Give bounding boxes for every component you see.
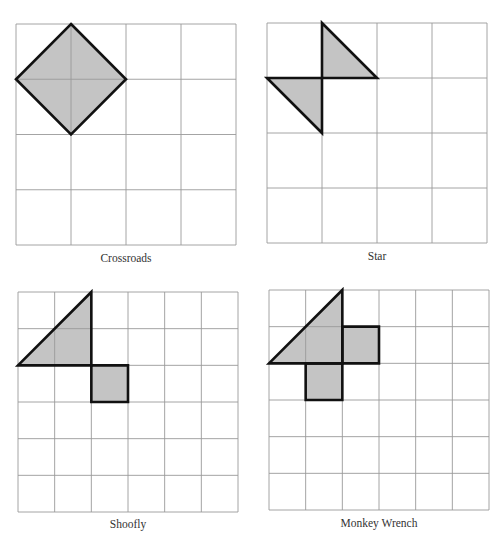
monkey-wrench-diagram — [269, 290, 489, 510]
figure-shoofly — [18, 292, 238, 512]
shoofly-square-fill — [91, 365, 128, 402]
crossroads-diagram — [16, 24, 236, 245]
monkey-wrench-right-square-fill — [342, 327, 379, 364]
star-diagram — [267, 23, 487, 243]
caption-crossroads: Crossroads — [16, 252, 236, 264]
figure-monkey-wrench — [269, 290, 489, 510]
monkey-wrench-bottom-square-fill — [306, 363, 343, 400]
caption-monkey-wrench: Monkey Wrench — [269, 517, 489, 529]
shoofly-diagram — [18, 292, 238, 512]
caption-star: Star — [267, 250, 487, 262]
figure-crossroads — [16, 24, 236, 245]
caption-shoofly: Shoofly — [18, 518, 238, 530]
figure-star — [267, 23, 487, 243]
